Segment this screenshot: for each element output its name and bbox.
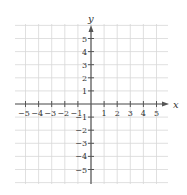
x-tick-label: 3 [128, 109, 133, 118]
x-axis-arrow-icon [162, 102, 169, 107]
coordinate-plane: −5−4−3−2−11234554321−1−2−3−4−5 x y [0, 0, 187, 195]
x-tick-label: 1 [102, 109, 107, 118]
x-tick-label: 2 [115, 109, 120, 118]
y-tick-label: −1 [75, 113, 87, 122]
y-axis-label: y [87, 13, 94, 24]
y-tick-label: −5 [75, 166, 87, 175]
x-tick-label: −2 [57, 109, 69, 118]
y-tick-label: 4 [82, 48, 87, 57]
x-axis-label: x [173, 99, 179, 110]
x-tick-label: 5 [154, 109, 159, 118]
y-tick-label: −3 [75, 139, 87, 148]
x-tick-label: 4 [141, 109, 146, 118]
y-tick-label: 3 [82, 61, 87, 70]
y-tick-label: −4 [75, 152, 87, 161]
x-tick-label: −4 [31, 109, 43, 118]
y-axis-arrow-icon [89, 25, 94, 32]
y-tick-label: 2 [82, 74, 87, 83]
x-tick-label: −3 [44, 109, 56, 118]
y-tick-label: −2 [75, 126, 87, 135]
y-tick-label: 5 [82, 35, 87, 44]
x-tick-label: −5 [18, 109, 30, 118]
y-tick-label: 1 [82, 87, 87, 96]
